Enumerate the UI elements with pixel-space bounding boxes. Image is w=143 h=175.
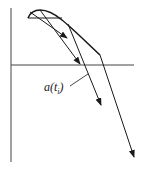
vector-1-arrow: [30, 12, 67, 38]
label-prefix: a(t: [44, 80, 57, 94]
vector-4-arrow: [100, 55, 134, 157]
label-suffix: ): [60, 80, 64, 94]
diagram-canvas: [0, 0, 143, 175]
label-leader-line: [70, 74, 88, 86]
acceleration-label: a(ti): [44, 80, 64, 96]
trajectory-curve: [28, 10, 100, 55]
